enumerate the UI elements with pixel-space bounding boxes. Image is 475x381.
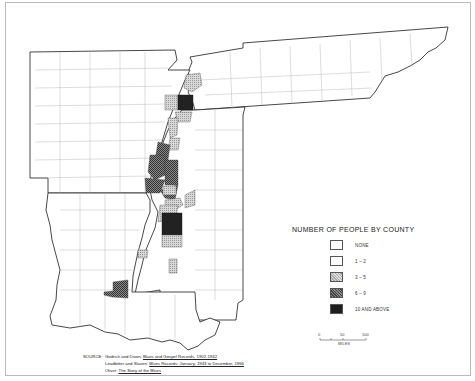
- legend-swatch: [330, 304, 343, 314]
- legend-swatch: [330, 272, 343, 282]
- legend-item-10-and-above: 10 AND ABOVE: [330, 304, 389, 314]
- state-tennessee: [188, 27, 448, 110]
- legend-swatch: [330, 288, 343, 298]
- legend-item-6-9: 6 – 9: [330, 288, 366, 298]
- legend-item-1-2: 1 – 2: [330, 256, 366, 266]
- legend-title: NUMBER OF PEOPLE BY COUNTY: [292, 226, 414, 233]
- source-citation: SOURCE:Godrich and Dixon: Blues and Gosp…: [83, 353, 244, 374]
- legend-swatch: [330, 240, 343, 250]
- legend-item-3-5: 3 – 5: [330, 272, 366, 282]
- map-canvas: [0, 0, 475, 381]
- legend-swatch: [330, 256, 343, 266]
- legend-item-none: NONE: [330, 240, 369, 250]
